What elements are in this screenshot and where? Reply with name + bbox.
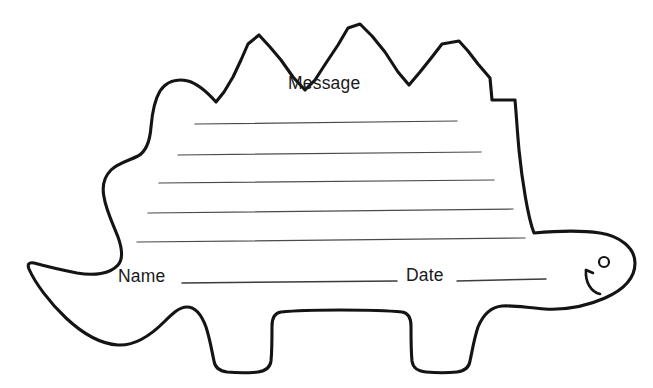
dinosaur-note-sheet: Message Name Date — [0, 0, 653, 388]
message-label: Message — [288, 73, 360, 94]
dinosaur-outline-graphic — [0, 0, 653, 388]
eye-icon — [599, 257, 609, 267]
date-label: Date — [406, 265, 444, 286]
name-label: Name — [118, 266, 165, 287]
